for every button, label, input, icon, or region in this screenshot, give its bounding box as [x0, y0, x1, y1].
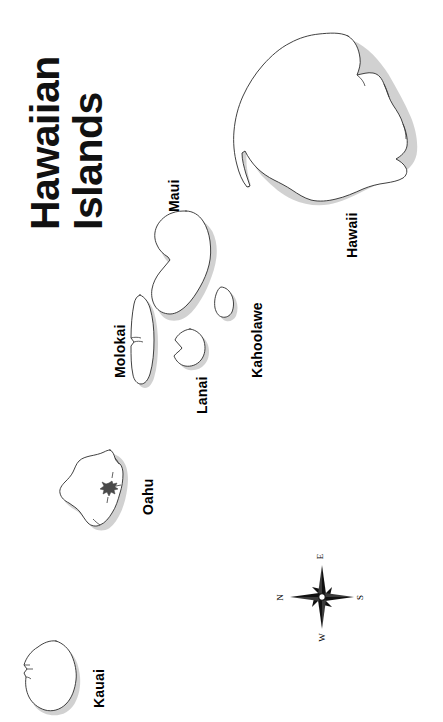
map-title-line-1: Hawaiian	[24, 56, 67, 230]
island-kahoolawe-outline	[215, 287, 234, 317]
compass-label-north: N	[276, 594, 285, 601]
label-kahoolawe: Kahoolawe	[250, 302, 264, 378]
label-molokai: Molokai	[113, 324, 127, 378]
island-kauai-outline	[24, 641, 76, 711]
island-maui-outline	[152, 211, 211, 314]
island-molokai	[131, 295, 158, 388]
label-oahu: Oahu	[141, 478, 155, 515]
map-title: Hawaiian Islands	[24, 56, 109, 230]
map-title-line-2: Islands	[67, 56, 110, 230]
island-hawaii-outline	[234, 33, 408, 201]
hawaiian-islands-map: Hawaiian Islands Hawaii Maui Kahoolawe L…	[0, 0, 443, 722]
label-hawaii: Hawaii	[345, 212, 359, 258]
island-lanai	[174, 329, 209, 370]
island-kauai	[24, 641, 80, 716]
compass-rose-star	[285, 560, 359, 634]
label-maui: Maui	[167, 179, 181, 212]
island-molokai-outline	[131, 295, 154, 384]
island-maui	[152, 211, 217, 321]
compass-rose: E S W N	[285, 560, 359, 634]
compass-label-west: W	[318, 633, 327, 642]
compass-label-south: S	[356, 595, 365, 600]
island-hawaii	[234, 33, 418, 205]
compass-label-east: E	[316, 554, 325, 560]
island-oahu	[60, 450, 128, 531]
island-lanai-outline	[174, 329, 205, 366]
island-kahoolawe	[215, 287, 238, 321]
label-lanai: Lanai	[195, 376, 209, 414]
label-kauai: Kauai	[92, 669, 106, 708]
